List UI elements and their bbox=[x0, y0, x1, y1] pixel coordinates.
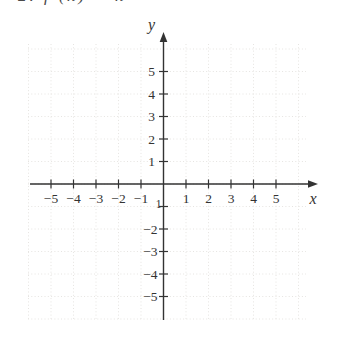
x-tick-label: −2 bbox=[111, 191, 125, 206]
y-tick-label: 2 bbox=[148, 132, 155, 147]
coordinate-plane: −5−4−3−2−112345543211−2−3−4−5xy bbox=[0, 0, 338, 338]
y-tick-label: −2 bbox=[143, 222, 157, 237]
y-tick-label: 4 bbox=[148, 87, 155, 102]
y-tick-label: −4 bbox=[143, 267, 158, 282]
y-tick-label: 1 bbox=[148, 154, 155, 169]
x-tick-label: −5 bbox=[44, 191, 59, 206]
x-axis-arrowhead-icon bbox=[308, 180, 318, 188]
x-tick-label: 1 bbox=[183, 191, 190, 206]
x-tick-label: −4 bbox=[66, 191, 81, 206]
y-tick-label: −3 bbox=[143, 244, 158, 259]
x-tick-label: 4 bbox=[250, 191, 257, 206]
y-tick-label: 3 bbox=[148, 109, 155, 124]
y-tick-label: 5 bbox=[148, 64, 155, 79]
y-tick-label: −5 bbox=[143, 289, 158, 304]
y-axis-label: y bbox=[146, 16, 156, 34]
y-axis-arrowhead-icon bbox=[160, 32, 168, 42]
x-tick-label: 5 bbox=[273, 191, 280, 206]
x-tick-label: −3 bbox=[89, 191, 104, 206]
x-tick-label: 2 bbox=[205, 191, 212, 206]
x-tick-label: −1 bbox=[134, 191, 148, 206]
x-tick-label: 3 bbox=[228, 191, 235, 206]
y-tick-label: 1 bbox=[156, 198, 162, 210]
x-axis-label: x bbox=[308, 190, 316, 207]
coordinate-plane-svg: −5−4−3−2−112345543211−2−3−4−5xy bbox=[0, 0, 338, 338]
graph-screenshot: 2. f (x) = x −5−4−3−2−112345543211−2−3−4… bbox=[0, 0, 338, 338]
